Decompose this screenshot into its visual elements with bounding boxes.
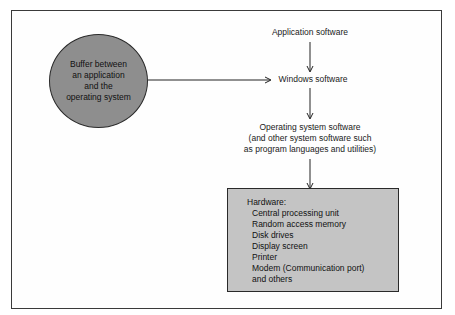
buffer-node-label: Buffer between an application and the op…	[66, 59, 131, 103]
hardware-item: Display screen	[252, 241, 398, 252]
hardware-item: Central processing unit	[252, 208, 398, 219]
hardware-item: Random access memory	[252, 219, 398, 230]
hardware-item: Disk drives	[252, 230, 398, 241]
hardware-item: Printer	[252, 252, 398, 263]
hardware-title: Hardware:	[247, 197, 398, 208]
hardware-box: Hardware: Central processing unit Random…	[227, 188, 399, 292]
node-operating-system-software: Operating system software (and other sys…	[230, 122, 390, 155]
buffer-node: Buffer between an application and the op…	[49, 34, 148, 128]
node-application-software: Application software	[250, 27, 370, 38]
node-windows-software: Windows software	[268, 74, 358, 85]
hardware-item: Modem (Communication port)	[252, 263, 398, 274]
hardware-item: and others	[252, 274, 398, 285]
hardware-list: Central processing unit Random access me…	[247, 208, 398, 285]
